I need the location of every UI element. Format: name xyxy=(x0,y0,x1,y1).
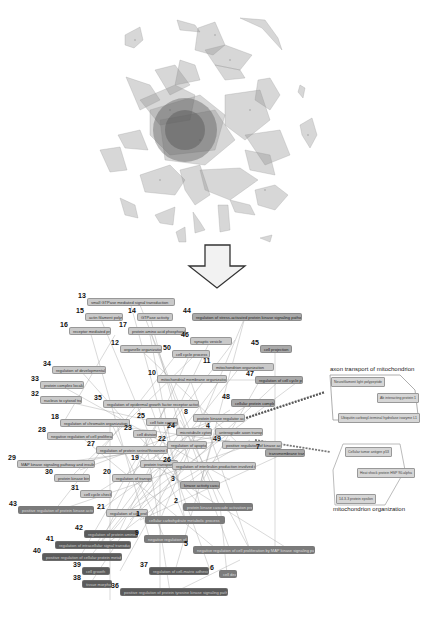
network-node: regulation of cell-matrix adhesion xyxy=(149,567,209,575)
network-node: transmembrane transport xyxy=(265,449,305,457)
network-node: regulation of interleukin production inv… xyxy=(172,462,256,470)
inset-protein-node: Ubiquitin carboxyl-terminal hydrolase is… xyxy=(338,413,420,423)
node-number: 25 xyxy=(137,412,145,419)
node-number: 23 xyxy=(124,424,132,431)
node-number: 35 xyxy=(94,394,102,401)
network-node: cell growth xyxy=(82,567,110,575)
node-number: 33 xyxy=(31,375,39,382)
network-node: regulation of developmental growth xyxy=(52,366,106,374)
node-number: 36 xyxy=(111,582,119,589)
node-number: 7 xyxy=(256,443,260,450)
network-node: small GTPase mediated signal transductio… xyxy=(87,298,175,306)
node-number: 37 xyxy=(140,561,148,568)
network-node: cell projection xyxy=(260,345,292,353)
node-number: 28 xyxy=(38,426,46,433)
network-node: mitochondrion organization xyxy=(212,363,274,371)
inset-protein-node: Neurofilament light polypeptide xyxy=(331,377,385,387)
node-number: 18 xyxy=(51,413,59,420)
network-node: GTPase activity xyxy=(137,313,173,321)
node-number: 47 xyxy=(246,370,254,377)
network-node: microtubule cytoskeleton xyxy=(176,428,212,436)
node-number: 50 xyxy=(163,344,171,351)
node-number: 9 xyxy=(135,529,139,536)
inset-protein-node: Cellular tumor antigen p53 xyxy=(345,447,392,457)
node-number: 48 xyxy=(222,393,230,400)
node-number: 14 xyxy=(128,307,136,314)
network-node: positive regulation of protein tyrosine … xyxy=(120,588,228,596)
node-number: 38 xyxy=(73,574,81,581)
node-number: 40 xyxy=(33,547,41,554)
network-node: negative regulation of cell proliferatio… xyxy=(47,432,113,440)
network-node: tissue morphology xyxy=(82,580,112,588)
node-number: 27 xyxy=(87,440,95,447)
node-number: 39 xyxy=(73,561,81,568)
node-number: 19 xyxy=(131,454,139,461)
node-number: 16 xyxy=(60,321,68,328)
node-number: 17 xyxy=(119,321,127,328)
network-node: negative regulation of kinase activity xyxy=(144,535,188,543)
node-number: 45 xyxy=(251,339,259,346)
network-node: organelle organization xyxy=(120,345,162,353)
network-node: cell division xyxy=(133,430,157,438)
network-node: regulation of transport xyxy=(112,474,152,482)
node-number: 20 xyxy=(103,468,111,475)
node-number: 42 xyxy=(75,524,83,531)
inset-title-mitochondrion-organization: mitochondrion organization xyxy=(333,506,405,512)
network-node: kinase activity cascade xyxy=(180,481,220,489)
node-number: 15 xyxy=(76,307,84,314)
network-node: actin filament polymerization xyxy=(85,313,123,321)
network-node: cell death xyxy=(219,570,237,578)
network-node: regulation of cell proliferation xyxy=(106,509,148,517)
node-number: 21 xyxy=(97,503,105,510)
network-node: positive regulation of cellular protein … xyxy=(42,553,122,561)
network-node: negative regulation of cell proliferatio… xyxy=(193,546,315,554)
network-node: nucleus to cytosol transport xyxy=(40,396,82,404)
node-number: 24 xyxy=(167,422,175,429)
node-number: 26 xyxy=(163,456,171,463)
network-edges xyxy=(0,0,437,617)
network-node: regulation of protein amino acid phospho… xyxy=(84,530,138,538)
node-number: 29 xyxy=(8,454,16,461)
inset-title-axon-transport: axon transport of mitochondrion xyxy=(330,366,414,372)
node-number: 13 xyxy=(78,292,86,299)
inset-protein-node: Heat shock protein HSP 90-alpha xyxy=(357,468,415,478)
network-node: mitochondrial membrane organization xyxy=(157,375,227,383)
network-node: protein kinase binding xyxy=(54,474,90,482)
node-number: 6 xyxy=(210,564,214,571)
node-number: 31 xyxy=(71,484,79,491)
node-number: 43 xyxy=(9,500,17,507)
functional-module-network: 13small GTPase mediated signal transduct… xyxy=(0,0,437,617)
network-node: protein kinase cascade activation proces… xyxy=(183,503,253,511)
network-node: protein complex localization xyxy=(40,381,84,389)
inset-protein-node: Ab interacting protein 1 xyxy=(377,393,419,403)
node-number: 10 xyxy=(148,369,156,376)
node-number: 1 xyxy=(136,510,140,517)
network-node: regulation of stress-activated protein k… xyxy=(192,313,302,321)
network-node: regulation of protein serine/threonine k… xyxy=(96,446,168,454)
network-node: protein amino acid phosphorylation xyxy=(128,327,186,335)
inset-protein-node: 14-3-3 protein epsilon xyxy=(336,494,376,504)
node-number: 34 xyxy=(43,360,51,367)
node-number: 8 xyxy=(184,408,188,415)
network-node: regulation of intracellular signal trans… xyxy=(55,541,131,549)
node-number: 22 xyxy=(158,435,166,442)
node-number: 2 xyxy=(174,497,178,504)
network-node: receptor mediated process xyxy=(69,327,111,335)
network-node: regulation of chromatin organization xyxy=(60,419,130,427)
node-number: 32 xyxy=(31,390,39,397)
network-node: synaptic vesicle xyxy=(190,337,232,345)
node-number: 44 xyxy=(183,307,191,314)
network-node: regulation of cell cycle process xyxy=(255,376,303,384)
node-number: 49 xyxy=(213,435,221,442)
network-node: MAP kinase signaling pathway and insulin… xyxy=(17,460,95,468)
node-number: 12 xyxy=(111,339,119,346)
network-node: positive regulation of protein kinase ac… xyxy=(18,506,94,514)
network-node: cellular protein complex xyxy=(231,399,275,407)
node-number: 46 xyxy=(181,331,189,338)
node-number: 11 xyxy=(203,357,210,364)
network-node: anterograde axon transport xyxy=(215,428,263,436)
node-number: 41 xyxy=(46,535,54,542)
node-number: 30 xyxy=(45,468,53,475)
node-number: 4 xyxy=(206,422,210,429)
network-node: positive regulation of kinase activity xyxy=(222,441,282,449)
